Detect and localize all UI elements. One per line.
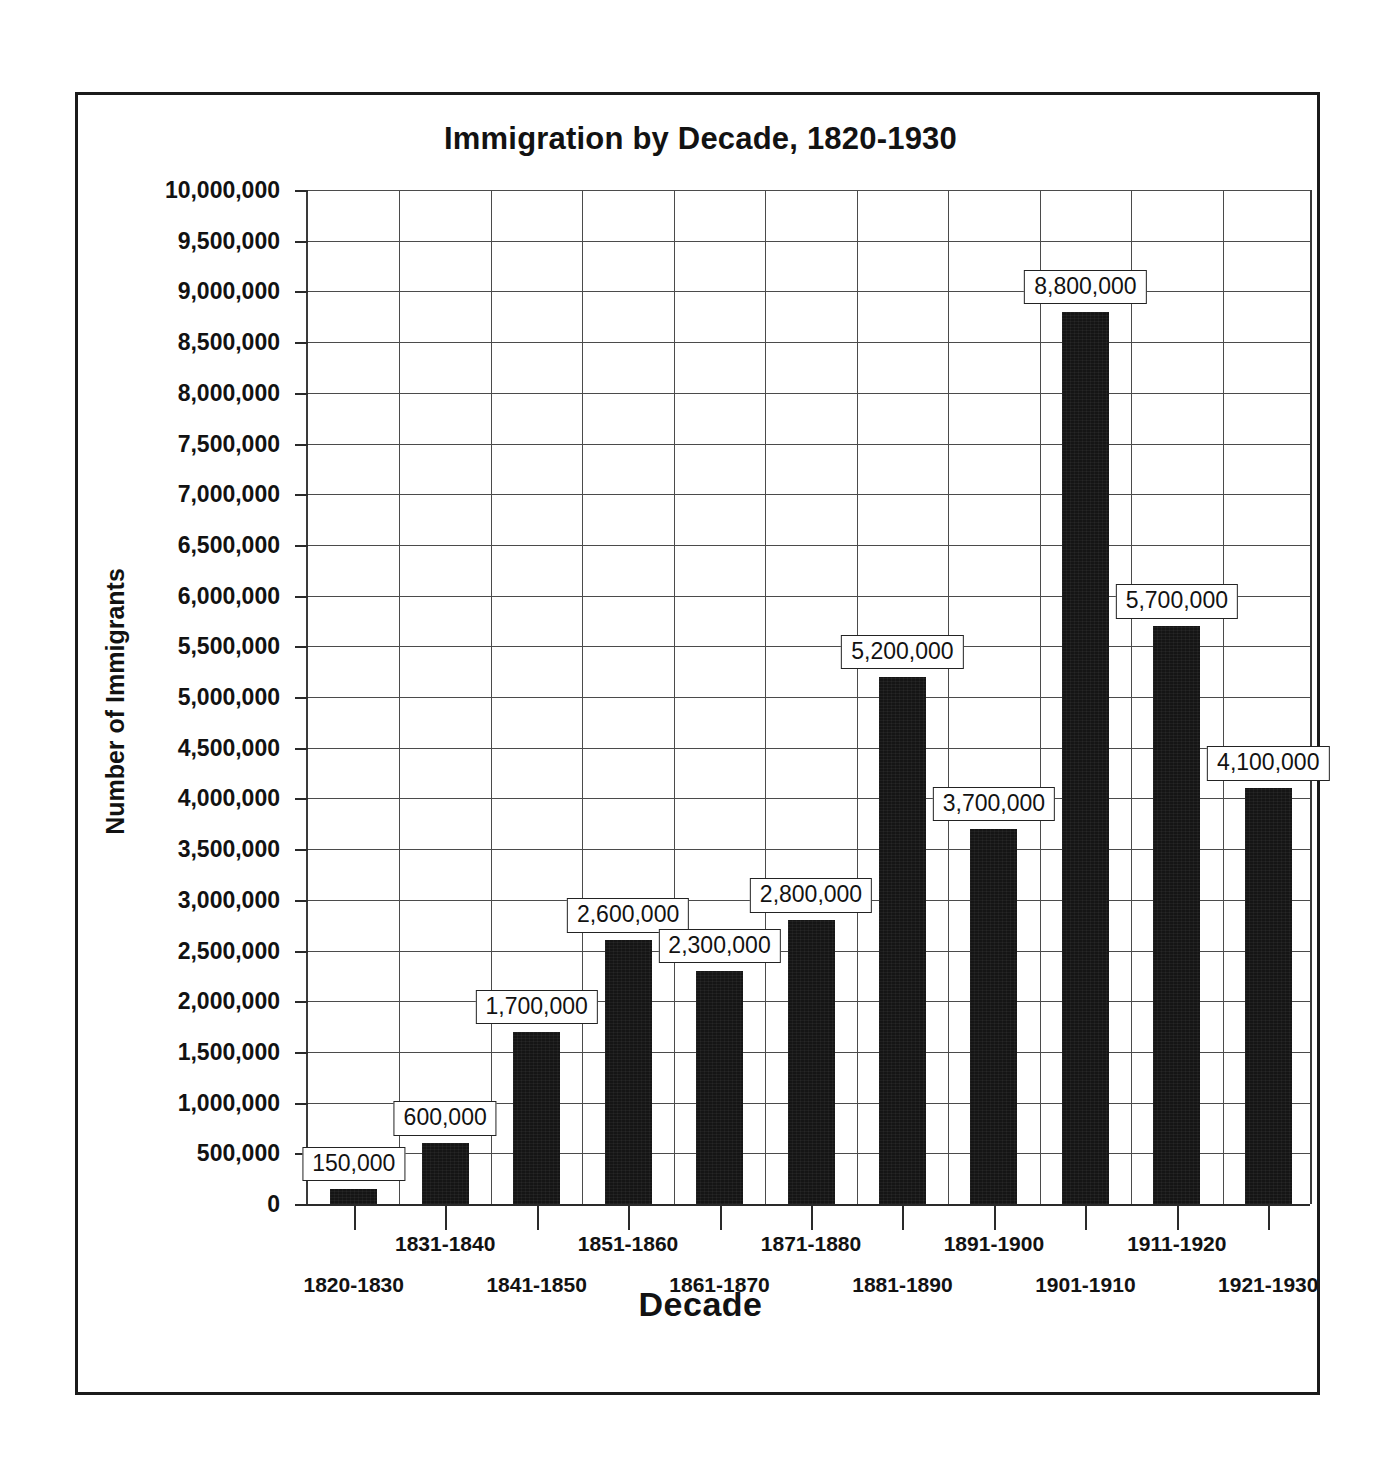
x-gridline (582, 190, 583, 1204)
y-tick-label: 8,000,000 (20, 379, 280, 406)
bar[interactable] (330, 1189, 377, 1204)
bar-value-label: 5,200,000 (841, 635, 963, 670)
bar[interactable] (605, 940, 652, 1204)
y-gridline (308, 190, 1310, 191)
bar-value-label: 600,000 (394, 1101, 497, 1136)
bar-value-label: 2,300,000 (658, 929, 780, 964)
x-tick-mark (1268, 1204, 1270, 1230)
bar-value-label: 8,800,000 (1024, 270, 1146, 305)
bar-value-label: 150,000 (302, 1147, 405, 1182)
y-tick-mark (295, 342, 308, 344)
y-tick-mark (295, 1103, 308, 1105)
y-tick-mark (295, 1001, 308, 1003)
x-tick-label: 1851-1860 (578, 1232, 678, 1256)
y-tick-mark (295, 646, 308, 648)
y-tick-mark (295, 444, 308, 446)
y-gridline (308, 291, 1310, 292)
y-tick-label: 6,000,000 (20, 582, 280, 609)
x-gridline (674, 190, 675, 1204)
bar[interactable] (970, 829, 1017, 1204)
y-gridline (308, 545, 1310, 546)
y-tick-mark (295, 291, 308, 293)
bar-value-label: 3,700,000 (933, 787, 1055, 822)
x-gridline (1223, 190, 1224, 1204)
y-gridline (308, 393, 1310, 394)
y-tick-label: 3,000,000 (20, 886, 280, 913)
x-gridline (948, 190, 949, 1204)
y-tick-label: 3,500,000 (20, 836, 280, 863)
y-tick-mark (295, 1052, 308, 1054)
y-gridline (308, 342, 1310, 343)
y-tick-mark (295, 596, 308, 598)
x-axis-title: Decade (78, 1285, 1323, 1324)
x-tick-mark (1177, 1204, 1179, 1230)
y-tick-mark (295, 748, 308, 750)
x-tick-mark (354, 1204, 356, 1230)
y-tick-label: 5,000,000 (20, 684, 280, 711)
y-tick-mark (295, 190, 308, 192)
x-gridline (765, 190, 766, 1204)
y-tick-label: 7,500,000 (20, 430, 280, 457)
y-gridline (308, 1204, 1310, 1206)
bar[interactable] (513, 1032, 560, 1204)
y-tick-label: 1,500,000 (20, 1038, 280, 1065)
x-tick-mark (902, 1204, 904, 1230)
x-tick-mark (811, 1204, 813, 1230)
y-gridline (308, 241, 1310, 242)
y-tick-label: 0 (20, 1191, 280, 1218)
x-tick-label: 1831-1840 (395, 1232, 495, 1256)
bar[interactable] (1062, 312, 1109, 1204)
bar[interactable] (422, 1143, 469, 1204)
x-gridline (857, 190, 858, 1204)
y-tick-label: 1,000,000 (20, 1089, 280, 1116)
x-tick-mark (720, 1204, 722, 1230)
bar-value-label: 1,700,000 (475, 990, 597, 1025)
y-tick-mark (295, 494, 308, 496)
x-tick-mark (445, 1204, 447, 1230)
x-tick-label: 1871-1880 (761, 1232, 861, 1256)
x-tick-label: 1911-1920 (1127, 1232, 1226, 1256)
y-tick-mark (295, 697, 308, 699)
bar[interactable] (696, 971, 743, 1204)
bar[interactable] (879, 677, 926, 1204)
x-tick-mark (537, 1204, 539, 1230)
x-tick-mark (994, 1204, 996, 1230)
y-tick-label: 500,000 (20, 1140, 280, 1167)
y-tick-mark (295, 545, 308, 547)
x-gridline (1040, 190, 1041, 1204)
bar-value-label: 5,700,000 (1116, 584, 1238, 619)
y-tick-mark (295, 798, 308, 800)
x-gridline (399, 190, 400, 1204)
y-gridline (308, 444, 1310, 445)
x-gridline (1131, 190, 1132, 1204)
bar-value-label: 2,800,000 (750, 878, 872, 913)
chart-title: Immigration by Decade, 1820-1930 (78, 121, 1323, 157)
bar[interactable] (1245, 788, 1292, 1204)
y-tick-mark (295, 241, 308, 243)
y-tick-mark (295, 1204, 308, 1206)
y-tick-label: 5,500,000 (20, 633, 280, 660)
y-tick-label: 4,500,000 (20, 734, 280, 761)
y-tick-label: 2,000,000 (20, 988, 280, 1015)
x-tick-mark (1085, 1204, 1087, 1230)
y-tick-mark (295, 393, 308, 395)
plot-area: 10,000,0009,500,0009,000,0008,500,0008,0… (306, 190, 1312, 1204)
chart-frame: Immigration by Decade, 1820-1930 Number … (75, 92, 1320, 1395)
y-tick-label: 9,500,000 (20, 227, 280, 254)
y-tick-label: 6,500,000 (20, 531, 280, 558)
y-tick-label: 9,000,000 (20, 278, 280, 305)
y-tick-label: 8,500,000 (20, 329, 280, 356)
x-tick-label: 1891-1900 (944, 1232, 1044, 1256)
bar[interactable] (1153, 626, 1200, 1204)
y-tick-mark (295, 951, 308, 953)
y-tick-mark (295, 849, 308, 851)
x-gridline (491, 190, 492, 1204)
x-tick-mark (628, 1204, 630, 1230)
y-tick-label: 4,000,000 (20, 785, 280, 812)
y-tick-mark (295, 900, 308, 902)
bar[interactable] (788, 920, 835, 1204)
bar-value-label: 4,100,000 (1207, 746, 1329, 781)
y-tick-label: 7,000,000 (20, 481, 280, 508)
y-gridline (308, 494, 1310, 495)
y-tick-label: 2,500,000 (20, 937, 280, 964)
